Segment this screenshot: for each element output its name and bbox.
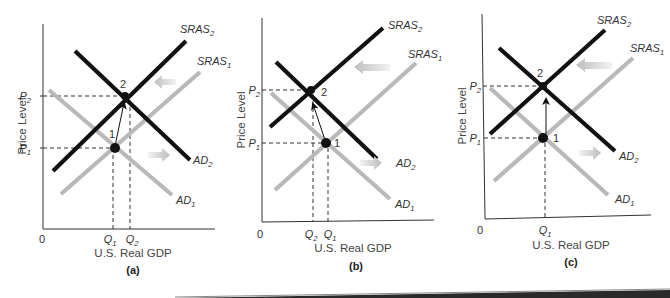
point-1-label: 1 — [553, 132, 559, 144]
ad2-label: AD2 — [618, 150, 639, 165]
ad2-label: AD2 — [395, 157, 416, 172]
equilibrium-point-1 — [321, 138, 331, 148]
panel-a: Price Level U.S. Real GDP 0 (a) 2 1 P2 P… — [16, 23, 231, 276]
q1-label: Q1 — [104, 233, 117, 248]
panel-caption: (b) — [349, 260, 363, 272]
ad1-curve — [490, 88, 608, 195]
ad2-label: AD2 — [192, 154, 213, 169]
ad1-label: AD1 — [175, 194, 195, 209]
p2-label: P2 — [469, 80, 481, 95]
ad2-curve — [75, 51, 190, 160]
right-shift-arrow-icon — [360, 156, 382, 170]
ad1-label: AD1 — [614, 193, 634, 208]
panel-caption: (c) — [564, 256, 578, 268]
equilibrium-point-2 — [121, 92, 129, 100]
right-shift-arrow-icon — [579, 146, 601, 160]
equilibrium-point-1 — [110, 143, 120, 153]
panel-c: Price Level U.S. Real GDP 0 (c) 2 1 P2 P… — [456, 14, 664, 268]
p1-label: P1 — [469, 132, 481, 147]
sras2-label: SRAS2 — [597, 14, 632, 29]
sras1-label: SRAS1 — [408, 48, 442, 63]
q2-label: Q2 — [126, 233, 140, 248]
q2-label: Q2 — [305, 228, 319, 243]
panel-caption: (a) — [126, 264, 140, 276]
x-axis-label: U.S. Real GDP — [94, 247, 172, 259]
sras2-label: SRAS2 — [388, 19, 423, 34]
x-axis-label: U.S. Real GDP — [314, 242, 392, 254]
p2-label: P2 — [248, 84, 260, 99]
point-2-label: 2 — [120, 78, 126, 90]
sras2-curve — [490, 30, 605, 134]
y-axis-label: Price Level — [456, 88, 468, 145]
sras1-label: SRAS1 — [630, 42, 664, 57]
left-shift-arrow-icon — [576, 58, 612, 72]
left-shift-arrow-icon — [354, 60, 390, 74]
point-2-label: 2 — [321, 86, 327, 98]
page-edge-shadow — [175, 290, 670, 298]
sras1-label: SRAS1 — [197, 55, 231, 70]
equilibrium-point-2 — [539, 82, 547, 90]
point-1-label: 1 — [109, 128, 115, 140]
x-axis-label: U.S. Real GDP — [532, 239, 610, 251]
equilibrium-point-2 — [307, 86, 315, 94]
right-shift-arrow-icon — [148, 148, 170, 162]
sras1-curve — [494, 58, 633, 181]
ad1-curve — [49, 90, 172, 195]
ad1-label: AD1 — [394, 198, 414, 213]
sras2-label: SRAS2 — [180, 23, 215, 38]
panel-b: Price Level U.S. Real GDP 0 (b) 2 1 P2 P… — [235, 18, 442, 272]
origin-label: 0 — [39, 233, 45, 245]
left-shift-arrow-icon — [154, 75, 176, 89]
point-1-label: 1 — [334, 137, 340, 149]
y-axis-label: Price Level — [235, 92, 247, 149]
origin-label: 0 — [477, 224, 483, 236]
equilibrium-point-1 — [538, 133, 548, 143]
origin-label: 0 — [257, 228, 263, 240]
q1-label: Q1 — [539, 224, 552, 239]
ad-sras-figure: Price Level U.S. Real GDP 0 (a) 2 1 P2 P… — [0, 0, 670, 298]
x-axis — [262, 220, 434, 222]
y-axis — [482, 14, 485, 219]
x-axis — [485, 215, 651, 219]
sras1-curve — [61, 72, 200, 194]
q1-label: Q1 — [324, 228, 337, 243]
p1-label: P1 — [248, 137, 260, 152]
point-2-label: 2 — [537, 67, 543, 79]
